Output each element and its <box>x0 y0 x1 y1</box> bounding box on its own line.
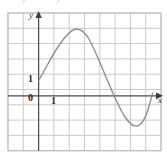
plot-canvas <box>0 0 167 163</box>
y-axis-label: y <box>29 10 33 20</box>
y-axis-arrow-icon <box>35 11 41 18</box>
x-unit-tick-label: 1 <box>51 95 56 106</box>
graph-figure: y y <box>0 0 167 163</box>
y-unit-tick-label: 1 <box>28 73 33 84</box>
x-axis-label: x <box>158 95 162 105</box>
origin-label: 0 <box>28 92 33 103</box>
